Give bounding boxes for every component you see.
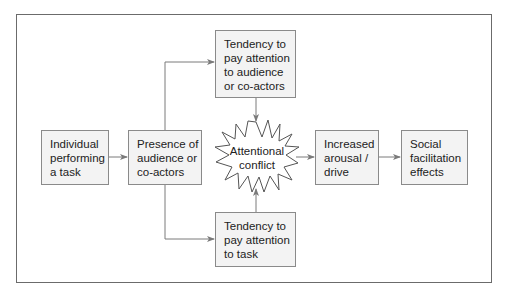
attentional-conflict-label: Attentional conflict <box>217 144 297 172</box>
node-social-facilitation-effects: Social facilitation effects <box>401 130 468 185</box>
node-label-line: audience or <box>137 151 195 165</box>
node-attention-to-audience: Tendency to pay attention to audience or… <box>215 30 296 98</box>
node-individual-performing-task: Individual performing a task <box>41 130 109 185</box>
node-label-line: Tendency to <box>224 37 289 51</box>
node-label-line: Social <box>410 137 461 151</box>
node-label-line: drive <box>324 165 372 179</box>
node-label-line: effects <box>410 165 461 179</box>
arrow-presence-to-attend-task <box>165 184 214 239</box>
node-label-line: Tendency to <box>224 219 289 233</box>
node-label-line: a task <box>50 165 102 179</box>
node-label-line: to task <box>224 247 289 261</box>
node-attention-to-task: Tendency to pay attention to task <box>215 212 296 267</box>
node-label-line: performing <box>50 151 102 165</box>
node-label-line: co-actors <box>137 165 195 179</box>
node-presence-of-audience: Presence of audience or co-actors <box>128 130 202 185</box>
node-label-line: Increased <box>324 137 372 151</box>
node-label-line: pay attention <box>224 233 289 247</box>
node-label-line: to audience <box>224 65 289 79</box>
node-label-line: Individual <box>50 137 102 151</box>
node-increased-arousal: Increased arousal / drive <box>315 130 379 185</box>
node-label-line: pay attention <box>224 51 289 65</box>
arrow-presence-to-attend-audience <box>165 62 214 130</box>
node-label-line: or co-actors <box>224 79 289 93</box>
node-label-line: facilitation <box>410 151 461 165</box>
node-label-line: Attentional <box>217 144 297 158</box>
node-label-line: arousal / <box>324 151 372 165</box>
node-label-line: conflict <box>217 158 297 172</box>
node-label-line: Presence of <box>137 137 195 151</box>
